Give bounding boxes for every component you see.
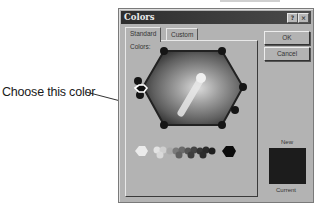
help-button[interactable]: ?	[287, 13, 298, 23]
new-label: New	[281, 139, 293, 145]
colors-dialog: Colors ? × Standard Custom Colors:	[118, 8, 314, 203]
close-button[interactable]: ×	[298, 13, 309, 23]
color-hexagon-palette[interactable]	[126, 41, 259, 198]
new-color-swatch	[269, 148, 306, 166]
black-color-cell	[222, 146, 236, 157]
standard-tab-panel: Colors:	[125, 40, 258, 197]
current-label: Current	[276, 187, 296, 193]
current-color-swatch	[269, 166, 306, 184]
tab-standard[interactable]: Standard	[125, 27, 161, 42]
ok-button[interactable]: OK	[264, 31, 310, 45]
cancel-button[interactable]: Cancel	[264, 47, 310, 61]
title-bar[interactable]: Colors ? ×	[121, 11, 311, 24]
selected-color-cell	[135, 85, 147, 92]
callout-label: Choose this color	[2, 85, 95, 99]
dialog-title: Colors	[124, 11, 155, 24]
